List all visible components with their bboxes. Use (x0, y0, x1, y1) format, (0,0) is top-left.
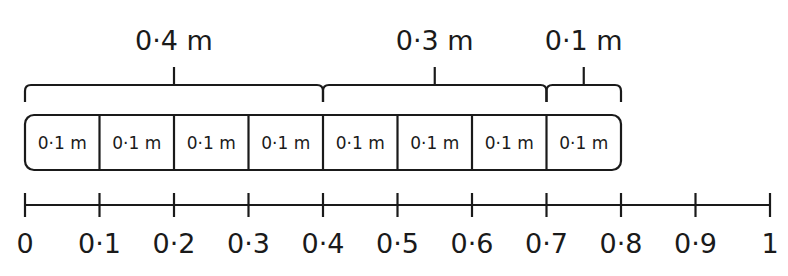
bar-cell-label: 0·1 m (38, 133, 87, 153)
bar-cell-label: 0·1 m (261, 133, 310, 153)
number-line: 00·10·20·30·40·50·60·70·80·91 (16, 193, 778, 259)
group-label: 0·4 m (135, 25, 213, 56)
tick-label: 0·7 (525, 228, 568, 259)
tick-label: 0·2 (153, 228, 196, 259)
brace-group (25, 67, 621, 102)
tick-label: 0·6 (451, 228, 494, 259)
brace (547, 85, 622, 102)
brace (25, 85, 323, 102)
bar-cell-label: 0·1 m (187, 133, 236, 153)
bar-cell-label: 0·1 m (485, 133, 534, 153)
tick-label: 0·1 (78, 228, 121, 259)
group-label: 0·3 m (396, 25, 474, 56)
tick-label: 0 (16, 228, 33, 259)
tick-label: 0·5 (376, 228, 419, 259)
bar-cell-label: 0·1 m (559, 133, 608, 153)
tick-label: 1 (761, 228, 778, 259)
bar-model-diagram: 0·4 m0·3 m0·1 m 0·1 m0·1 m0·1 m0·1 m0·1 … (0, 0, 788, 276)
brace (323, 85, 547, 102)
tick-label: 0·9 (674, 228, 717, 259)
group-label: 0·1 m (545, 25, 623, 56)
bar-cell-label: 0·1 m (336, 133, 385, 153)
bar-cell-label: 0·1 m (410, 133, 459, 153)
tick-label: 0·3 (227, 228, 270, 259)
bar-cells: 0·1 m0·1 m0·1 m0·1 m0·1 m0·1 m0·1 m0·1 m (25, 115, 621, 170)
group-labels: 0·4 m0·3 m0·1 m (135, 25, 623, 56)
bar-cell-label: 0·1 m (112, 133, 161, 153)
tick-label: 0·8 (600, 228, 643, 259)
tick-label: 0·4 (302, 228, 345, 259)
